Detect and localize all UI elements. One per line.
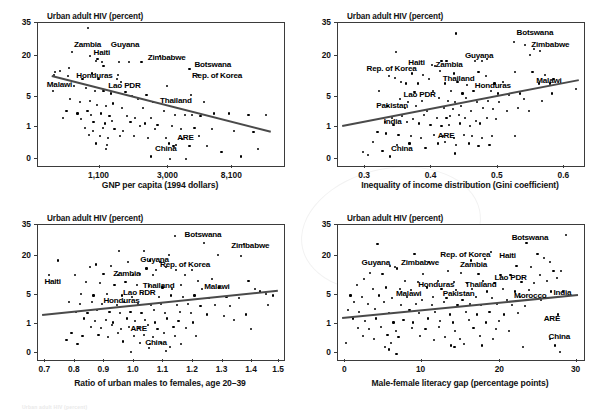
- data-point: [522, 346, 524, 348]
- data-point: [392, 321, 394, 323]
- panel-literacy-xtick-mark: [576, 359, 577, 362]
- cut-off-footnote: Urban adult HIV (percent): [22, 404, 87, 410]
- data-point: [549, 261, 551, 263]
- data-point: [452, 321, 454, 323]
- data-point: [361, 296, 363, 298]
- country-label: ARE: [544, 314, 561, 323]
- panel-literacy-xaxis-label: Male-female literacy gap (percentage poi…: [310, 378, 600, 388]
- panel-literacy-ytick: 0: [307, 347, 331, 357]
- data-point: [362, 335, 364, 337]
- data-point: [431, 304, 433, 306]
- data-point: [386, 334, 388, 336]
- country-label: Morocco: [514, 291, 546, 300]
- data-point: [356, 284, 358, 286]
- country-label: Honduras: [418, 280, 454, 289]
- data-point: [468, 319, 470, 321]
- panel-literacy-xtick: 10: [401, 364, 441, 374]
- data-point: [378, 294, 380, 296]
- data-point: [413, 253, 415, 255]
- panel-literacy-ytick-mark: [334, 255, 337, 256]
- country-label: Rep. of Korea: [440, 250, 490, 259]
- data-point: [565, 234, 567, 236]
- data-point: [395, 330, 397, 332]
- data-point: [475, 296, 477, 298]
- data-point: [438, 326, 440, 328]
- data-point: [459, 338, 461, 340]
- data-point: [381, 273, 383, 275]
- panel-literacy-title: Urban adult HIV (percent): [347, 214, 443, 223]
- data-point: [373, 338, 375, 340]
- data-point: [395, 353, 397, 355]
- data-point: [372, 288, 374, 290]
- data-point: [477, 273, 479, 275]
- country-label: Thailand: [465, 280, 497, 289]
- panel-literacy-xtick: 20: [479, 364, 519, 374]
- data-point: [421, 299, 423, 301]
- data-point: [472, 327, 474, 329]
- panel-literacy-xtick-mark: [421, 359, 422, 362]
- country-label: Zimbabwe: [401, 258, 439, 267]
- data-point: [525, 242, 527, 244]
- data-point: [427, 317, 429, 319]
- data-point: [432, 296, 434, 298]
- panel-literacy: Urban adult HIV (percent)35205100102030B…: [0, 0, 600, 413]
- data-point: [388, 348, 390, 350]
- data-point: [479, 335, 481, 337]
- country-label: India: [553, 288, 571, 297]
- data-point: [461, 299, 463, 301]
- panel-literacy-ytick: 20: [307, 250, 331, 260]
- data-point: [357, 327, 359, 329]
- data-point: [453, 346, 455, 348]
- data-point: [476, 313, 478, 315]
- data-point: [511, 304, 513, 306]
- panel-literacy-ytick: 35: [307, 219, 331, 229]
- country-label: Haiti: [499, 251, 516, 260]
- panel-literacy-xtick: 0: [324, 364, 364, 374]
- panel-literacy-ytick-mark: [334, 224, 337, 225]
- data-point: [481, 344, 483, 346]
- data-point: [550, 290, 552, 292]
- data-point: [486, 290, 488, 292]
- data-point: [515, 265, 517, 267]
- country-label: Malawi: [396, 289, 421, 298]
- country-label: Zambia: [460, 260, 487, 269]
- data-point: [385, 286, 387, 288]
- data-point: [449, 313, 451, 315]
- panel-literacy-xtick-mark: [499, 359, 500, 362]
- data-point: [454, 330, 456, 332]
- panel-literacy-ytick-mark: [334, 323, 337, 324]
- data-point: [502, 288, 504, 290]
- data-point: [345, 342, 347, 344]
- panel-literacy-ytick: 5: [307, 289, 331, 299]
- data-point: [536, 253, 538, 255]
- data-point: [404, 280, 406, 282]
- data-point: [488, 311, 490, 313]
- panel-literacy-ytick-mark: [334, 352, 337, 353]
- country-label: China: [549, 332, 570, 341]
- data-point: [402, 319, 404, 321]
- data-point: [349, 294, 351, 296]
- data-point: [384, 346, 386, 348]
- data-point: [367, 303, 369, 305]
- panel-literacy-xtick-mark: [344, 359, 345, 362]
- country-label: Botswana: [512, 233, 549, 242]
- country-label: Pakistan: [443, 289, 475, 298]
- data-point: [543, 257, 545, 259]
- data-point: [485, 321, 487, 323]
- panel-literacy-xtick: 30: [556, 364, 596, 374]
- country-label: Guyana: [362, 258, 391, 267]
- data-point: [415, 303, 417, 305]
- panel-literacy-ytick: 1: [307, 318, 331, 328]
- data-point: [554, 344, 556, 346]
- panel-literacy-ytick-mark: [334, 294, 337, 295]
- country-label: Lao PDR: [494, 273, 526, 282]
